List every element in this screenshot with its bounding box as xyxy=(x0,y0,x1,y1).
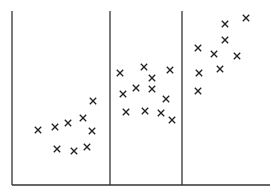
x-marker-icon xyxy=(222,37,228,43)
x-marker-icon xyxy=(141,64,147,70)
x-marker-icon xyxy=(222,21,228,27)
x-marker-icon xyxy=(71,148,77,154)
x-marker-icon xyxy=(196,70,202,76)
x-marker-icon xyxy=(217,66,223,72)
x-marker-icon xyxy=(234,53,240,59)
x-marker-icon xyxy=(133,85,139,91)
x-marker-icon xyxy=(195,45,201,51)
x-marker-icon xyxy=(158,110,164,116)
segment-2-points xyxy=(117,64,175,123)
x-marker-icon xyxy=(90,98,96,104)
x-marker-icon xyxy=(52,124,58,130)
x-marker-icon xyxy=(80,115,86,121)
x-marker-icon xyxy=(195,88,201,94)
x-marker-icon xyxy=(117,70,123,76)
x-marker-icon xyxy=(142,108,148,114)
x-marker-icon xyxy=(35,127,41,133)
x-marker-icon xyxy=(89,128,95,134)
x-marker-icon xyxy=(123,109,129,115)
x-marker-icon xyxy=(54,146,60,152)
x-marker-icon xyxy=(163,96,169,102)
x-marker-icon xyxy=(65,120,71,126)
x-marker-icon xyxy=(84,144,90,150)
segment-1-points xyxy=(35,98,96,154)
x-marker-icon xyxy=(211,51,217,57)
x-marker-icon xyxy=(243,15,249,21)
x-marker-icon xyxy=(167,67,173,73)
x-marker-icon xyxy=(169,117,175,123)
x-marker-icon xyxy=(149,86,155,92)
plot-axes xyxy=(12,11,270,185)
x-marker-icon xyxy=(120,91,126,97)
x-marker-icon xyxy=(149,75,155,81)
data-markers xyxy=(35,15,249,154)
segment-3-points xyxy=(195,15,249,94)
segmented-scatter-plot xyxy=(0,0,270,195)
